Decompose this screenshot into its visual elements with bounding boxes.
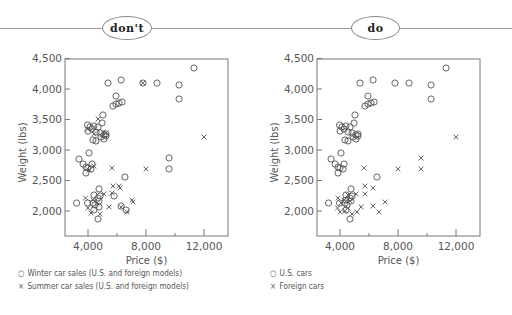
legend-label-us-cars: U.S. cars bbox=[279, 267, 311, 280]
legend-dont: ○ Winter car sales (U.S. and foreign mod… bbox=[18, 267, 189, 293]
circle-marker-icon: ○ bbox=[18, 267, 26, 280]
circle-marker bbox=[347, 216, 353, 222]
x-marker bbox=[377, 210, 382, 215]
y-tick-label: 4,000 bbox=[284, 83, 314, 95]
x-tick-label: 12,000 bbox=[438, 240, 475, 252]
x-marker bbox=[454, 135, 459, 140]
x-marker bbox=[350, 212, 355, 217]
x-marker bbox=[359, 205, 364, 210]
legend-item-summer: × Summer car sales (U.S. and foreign mod… bbox=[18, 280, 189, 293]
circle-marker bbox=[370, 77, 376, 83]
x-marker bbox=[362, 166, 367, 171]
x-marker bbox=[363, 184, 368, 189]
x-marker bbox=[363, 192, 368, 197]
y-axis-title: Weight (lbs) bbox=[269, 122, 280, 182]
x-marker bbox=[355, 210, 360, 215]
legend-label-summer: Summer car sales (U.S. and foreign model… bbox=[27, 280, 188, 293]
x-marker bbox=[371, 204, 376, 209]
x-tick-label: 4,000 bbox=[325, 240, 355, 252]
circle-marker bbox=[351, 120, 357, 126]
y-tick-label: 3,000 bbox=[284, 144, 314, 156]
x-marker bbox=[419, 156, 424, 161]
y-tick-label: 2,000 bbox=[284, 205, 314, 217]
circle-marker bbox=[428, 82, 434, 88]
legend-label-winter: Winter car sales (U.S. and foreign model… bbox=[27, 267, 182, 280]
x-marker bbox=[336, 196, 341, 201]
circle-marker bbox=[392, 80, 398, 86]
x-marker bbox=[396, 167, 401, 172]
circle-marker bbox=[428, 96, 434, 102]
y-tick-label: 4,500 bbox=[284, 52, 314, 64]
circle-marker bbox=[325, 200, 331, 206]
x-axis-title: Price ($) bbox=[378, 255, 420, 266]
x-marker bbox=[383, 200, 388, 205]
legend-item-foreign-cars: × Foreign cars bbox=[270, 280, 324, 293]
circle-marker bbox=[338, 150, 344, 156]
y-tick-label: 3,500 bbox=[284, 113, 314, 125]
circle-marker bbox=[374, 174, 380, 180]
circle-marker-icon: ○ bbox=[270, 267, 278, 280]
x-marker bbox=[371, 186, 376, 191]
x-tick-label: 8,000 bbox=[383, 240, 413, 252]
legend-item-us-cars: ○ U.S. cars bbox=[270, 267, 324, 280]
x-marker bbox=[419, 167, 424, 172]
y-tick-label: 2,500 bbox=[284, 174, 314, 186]
plot-frame bbox=[317, 59, 480, 236]
legend-do: ○ U.S. cars × Foreign cars bbox=[270, 267, 324, 293]
circle-marker bbox=[406, 80, 412, 86]
circle-marker bbox=[348, 186, 354, 192]
x-marker-icon: × bbox=[270, 280, 278, 293]
legend-label-foreign-cars: Foreign cars bbox=[279, 280, 324, 293]
circle-marker bbox=[443, 65, 449, 71]
circle-marker bbox=[365, 93, 371, 99]
x-marker-icon: × bbox=[18, 280, 26, 293]
circle-marker bbox=[352, 112, 358, 118]
legend-item-winter: ○ Winter car sales (U.S. and foreign mod… bbox=[18, 267, 189, 280]
circle-marker bbox=[357, 80, 363, 86]
